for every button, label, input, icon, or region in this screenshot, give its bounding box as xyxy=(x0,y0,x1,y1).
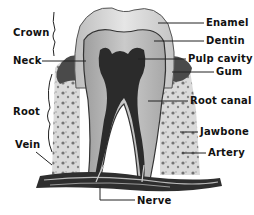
label-nerve: Nerve xyxy=(137,195,171,207)
tooth-diagram: Crown Neck Root Vein Enamel Dentin Pulp … xyxy=(0,0,254,215)
label-gum: Gum xyxy=(216,66,242,78)
label-enamel: Enamel xyxy=(206,17,249,29)
label-jawbone: Jawbone xyxy=(200,126,249,138)
crown-brace xyxy=(53,12,55,56)
label-neck: Neck xyxy=(13,55,42,67)
label-dentin: Dentin xyxy=(206,35,245,47)
label-pulp-cavity: Pulp cavity xyxy=(188,53,253,65)
label-crown: Crown xyxy=(13,27,50,39)
root-brace xyxy=(48,74,53,152)
label-root-canal: Root canal xyxy=(190,95,252,107)
label-root: Root xyxy=(13,106,40,118)
label-vein: Vein xyxy=(15,139,40,151)
label-artery: Artery xyxy=(208,147,245,159)
